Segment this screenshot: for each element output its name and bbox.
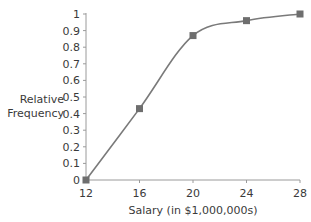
x-axis: 1216202428 xyxy=(79,180,307,200)
data-point-marker xyxy=(83,177,90,184)
y-tick-label: 0.5 xyxy=(63,91,81,104)
x-tick-label: 24 xyxy=(240,187,254,200)
y-axis-title-line1: Relative xyxy=(20,93,65,106)
y-tick-label: 0.7 xyxy=(63,58,81,71)
data-point-marker xyxy=(190,32,197,39)
y-tick-label: 0.1 xyxy=(63,157,81,170)
y-tick-label: 0.2 xyxy=(63,141,81,154)
y-tick-label: 0.4 xyxy=(63,108,81,121)
y-tick-label: 0.3 xyxy=(63,124,81,137)
y-tick-label: 0.8 xyxy=(63,41,81,54)
data-markers xyxy=(83,11,304,184)
data-point-marker xyxy=(136,105,143,112)
x-axis-title: Salary (in $1,000,000s) xyxy=(129,204,258,217)
y-tick-label: 0.6 xyxy=(63,74,81,87)
ogive-chart: 00.10.20.30.40.50.60.70.80.91 1216202428… xyxy=(0,0,311,222)
y-tick-label: 0.9 xyxy=(63,25,81,38)
data-point-marker xyxy=(297,11,304,18)
x-tick-label: 28 xyxy=(293,187,307,200)
y-tick-label: 1 xyxy=(73,8,80,21)
y-axis-title-line2: Frequency xyxy=(7,107,64,120)
y-axis: 00.10.20.30.40.50.60.70.80.91 xyxy=(63,8,87,187)
data-point-marker xyxy=(243,17,250,24)
y-tick-label: 0 xyxy=(73,174,80,187)
x-tick-label: 16 xyxy=(133,187,147,200)
x-tick-label: 12 xyxy=(79,187,93,200)
x-tick-label: 20 xyxy=(186,187,200,200)
